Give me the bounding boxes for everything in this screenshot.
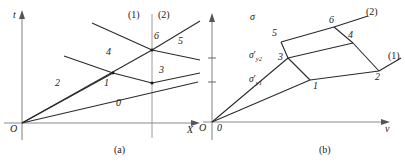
incoming-wave-top: [92, 23, 152, 50]
branch-label-1-b: (1): [388, 51, 400, 61]
panel-a: t X O 0 1 2 3 4 5 6 (1) (2) (a): [0, 0, 203, 167]
branch-label-2-a: (2): [158, 10, 170, 20]
panel-b-caption: (b): [319, 145, 331, 155]
point-label-3-b: 3: [278, 52, 283, 62]
node-upper-left: [112, 72, 115, 75]
region-label-5-a: 5: [178, 36, 183, 46]
origin-label-a: O: [10, 124, 17, 134]
characteristic-ray-0: [22, 82, 198, 123]
point-label-2-b: 2: [375, 72, 380, 82]
point-label-4-b: 4: [348, 30, 353, 40]
path-3-1: [288, 58, 310, 80]
path-3-4: [288, 43, 353, 58]
characteristic-ray-2: [22, 73, 113, 123]
region-label-6-a: 6: [154, 31, 159, 41]
point-label-6-b: 6: [329, 15, 334, 25]
path-4-2: [353, 43, 379, 71]
outgoing-wave-6: [152, 21, 200, 50]
region-label-1-a: 1: [104, 78, 109, 88]
reflected-wave-mid: [113, 73, 152, 83]
x-axis-label: X: [187, 125, 193, 135]
path-O-3: [212, 58, 288, 122]
ytick-label-sigma-y1: σ′y1: [249, 75, 262, 86]
panel-a-caption: (a): [114, 145, 125, 155]
region-label-0-a: 0: [116, 98, 121, 108]
region-label-2-a: 2: [55, 78, 60, 88]
point-label-1-b: 1: [313, 81, 318, 91]
path-1-2: [310, 71, 379, 80]
incoming-wave-upper: [64, 56, 113, 73]
node-3: [150, 81, 153, 84]
point-label-5-b: 5: [272, 28, 277, 38]
v-axis-label: v: [385, 124, 389, 134]
ytick-label-sigma-y2: σ′y2: [249, 51, 262, 62]
region-label-3-a: 3: [159, 65, 164, 75]
point-label-0-b: 0: [217, 123, 222, 133]
sigma-axis-arrow: [209, 13, 215, 22]
node-6: [150, 48, 153, 51]
sigma-axis-label: σ: [250, 12, 255, 22]
outgoing-wave-5: [152, 50, 200, 60]
t-axis-label: t: [13, 10, 16, 20]
figure-container: t X O 0 1 2 3 4 5 6 (1) (2) (a): [0, 0, 405, 167]
panel-b: σ v O 0 σ′y2 σ′y1 1 2 3 4 5 6 (1) (2) (b…: [203, 0, 405, 167]
panel-b-plot: [203, 0, 405, 167]
branch-label-2-b: (2): [366, 7, 378, 17]
origin-label-b: O: [199, 123, 206, 133]
region-label-4-a: 4: [106, 47, 111, 57]
path-6-branch2: [334, 16, 368, 27]
panel-a-plot: [0, 0, 203, 167]
branch-label-1-a: (1): [128, 10, 140, 20]
path-5-6: [281, 27, 334, 42]
t-axis-arrow: [19, 10, 25, 19]
